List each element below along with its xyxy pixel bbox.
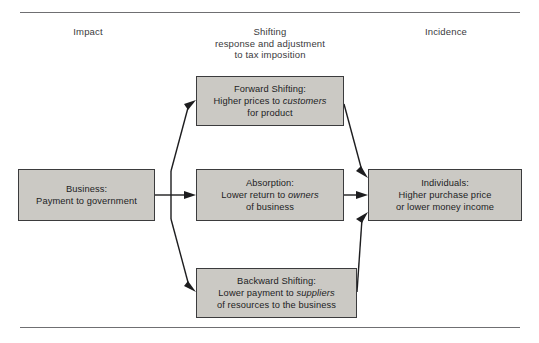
arrowhead-business-to-absorption	[184, 191, 196, 199]
node-forward-shifting-line2-emphasis: customers	[283, 96, 327, 106]
node-absorption-line3: of business	[246, 201, 294, 213]
arrow-business-to-backward	[171, 219, 189, 286]
node-backward-shifting-title: Backward Shifting:	[237, 275, 316, 287]
node-individuals[interactable]: Individuals: Higher purchase price or lo…	[368, 169, 522, 221]
node-business[interactable]: Business: Payment to government	[18, 169, 155, 221]
node-individuals-line3: or lower money income	[396, 201, 494, 213]
arrowhead-forward-to-individuals	[356, 166, 368, 178]
node-absorption-line2-emphasis: owners	[288, 190, 319, 200]
tax-shifting-diagram: Impact Shifting response and adjustment …	[0, 0, 539, 343]
column-heading-shifting: Shifting response and adjustment to tax …	[196, 26, 344, 61]
node-backward-shifting[interactable]: Backward Shifting: Lower payment to supp…	[196, 268, 357, 318]
node-absorption-line2: Lower return to owners	[221, 189, 318, 201]
arrowhead-backward-to-individuals	[356, 212, 368, 223]
node-business-line2: Payment to government	[36, 195, 137, 207]
top-divider-rule	[20, 12, 520, 13]
node-backward-shifting-line2: Lower payment to suppliers	[218, 287, 334, 299]
arrow-forward-to-individuals	[344, 104, 362, 171]
node-absorption-line2-pre: Lower return to	[221, 190, 288, 200]
node-business-title: Business:	[66, 183, 107, 195]
node-forward-shifting-line2: Higher prices to customers	[213, 95, 326, 107]
node-forward-shifting-line2-pre: Higher prices to	[213, 96, 282, 106]
node-absorption[interactable]: Absorption: Lower return to owners of bu…	[196, 169, 344, 221]
node-absorption-title: Absorption:	[246, 177, 294, 189]
node-individuals-title: Individuals:	[421, 177, 469, 189]
node-forward-shifting[interactable]: Forward Shifting: Higher prices to custo…	[196, 76, 344, 126]
column-heading-impact: Impact	[18, 26, 158, 38]
node-backward-shifting-line2-pre: Lower payment to	[218, 288, 296, 298]
arrow-backward-to-individuals	[357, 219, 362, 292]
arrowhead-business-to-forward	[184, 100, 196, 110]
arrowhead-business-to-backward	[184, 281, 196, 292]
node-individuals-line2: Higher purchase price	[398, 189, 491, 201]
node-forward-shifting-line3: for product	[247, 107, 293, 119]
column-heading-incidence: Incidence	[368, 26, 524, 38]
bottom-divider-rule	[20, 327, 520, 328]
arrow-business-to-forward	[171, 104, 189, 171]
node-backward-shifting-line3: of resources to the business	[217, 299, 336, 311]
node-individuals-line2-pre: Higher purchase price	[398, 190, 491, 200]
node-forward-shifting-title: Forward Shifting:	[234, 83, 306, 95]
node-business-line2-pre: Payment to government	[36, 196, 137, 206]
node-backward-shifting-line2-emphasis: suppliers	[297, 288, 335, 298]
arrowhead-absorption-to-individuals	[356, 191, 368, 199]
